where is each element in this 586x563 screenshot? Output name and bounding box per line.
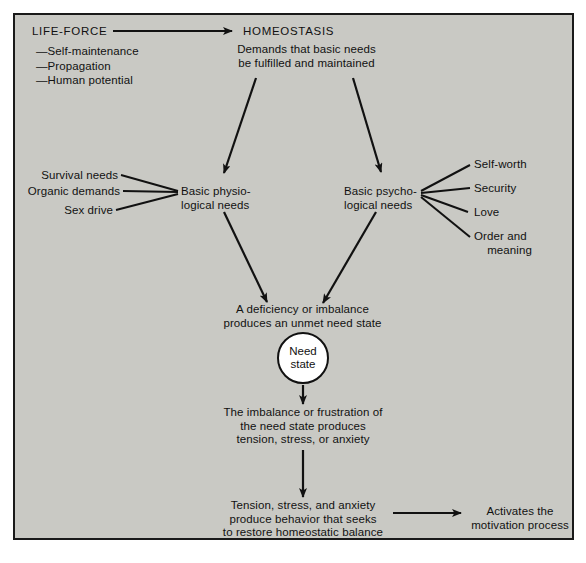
label-need-state: Need state: [289, 345, 317, 371]
diagram-panel: [13, 13, 574, 540]
node-demands: Demands that basic needs be fulfilled an…: [224, 43, 389, 70]
node-behavior: Tension, stress, and anxiety produce beh…: [190, 499, 416, 540]
label-security: Security: [474, 182, 516, 196]
diagram-canvas: LIFE-FORCE HOMEOSTASIS —Self-maintenance…: [0, 0, 586, 563]
node-basic-physiological-needs: Basic physio- logical needs: [181, 185, 251, 212]
list-life-force-items: —Self-maintenance —Propagation —Human po…: [36, 44, 139, 88]
label-organic-demands: Organic demands: [0, 185, 120, 199]
label-order-and-meaning: Order and meaning: [474, 230, 532, 257]
node-basic-psychological-needs: Basic psycho- logical needs: [344, 185, 417, 212]
node-need-state-circle: Need state: [277, 332, 329, 384]
label-survival-needs: Survival needs: [0, 169, 118, 183]
node-activates-motivation: Activates the motivation process: [465, 505, 575, 532]
label-self-worth: Self-worth: [474, 158, 527, 172]
label-sex-drive: Sex drive: [0, 204, 113, 218]
label-homeostasis: HOMEOSTASIS: [243, 25, 334, 39]
label-love: Love: [474, 206, 499, 220]
node-deficiency: A deficiency or imbalance produces an un…: [195, 303, 410, 330]
label-life-force: LIFE-FORCE: [32, 25, 107, 39]
node-imbalance: The imbalance or frustration of the need…: [190, 406, 416, 447]
